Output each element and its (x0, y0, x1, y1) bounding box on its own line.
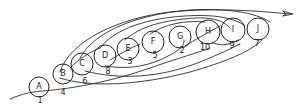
node-letter-e: E (125, 45, 130, 53)
node-letter-h: H (205, 28, 211, 36)
node-number-b: 4 (60, 89, 65, 97)
node-letter-g: G (177, 33, 183, 41)
node-letter-i: I (232, 26, 234, 34)
node-letter-j: J (257, 25, 259, 33)
node-letter-a: A (36, 83, 41, 91)
node-number-d: 8 (105, 68, 110, 76)
node-number-a: 1 (37, 97, 42, 105)
node-number-j: 7 (254, 40, 259, 48)
sketch-diagram: A 1 B 4 C 6 D 8 E 3 F 5 G 2 H 10 I 9 J 7 (0, 0, 305, 111)
node-letter-b: B (60, 70, 66, 78)
node-number-c: 6 (82, 78, 87, 86)
node-letter-f: F (151, 38, 156, 46)
node-letter-d: D (102, 52, 108, 60)
node-letter-c: C (79, 60, 85, 68)
node-number-h: 10 (200, 44, 210, 52)
node-number-i: 9 (229, 42, 234, 50)
node-number-g: 2 (179, 47, 184, 55)
node-number-f: 5 (152, 52, 157, 60)
node-number-e: 3 (127, 58, 132, 66)
